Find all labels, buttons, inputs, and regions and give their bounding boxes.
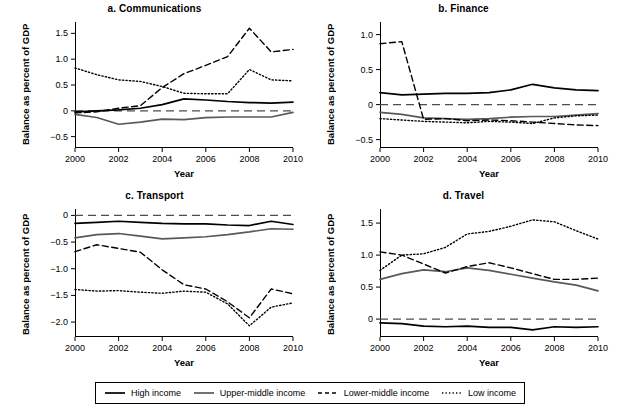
panel-communications: a. Communications Balance as percent of … — [0, 0, 309, 185]
plot-svg — [380, 22, 598, 148]
series-line — [75, 221, 293, 225]
legend-swatch-icon — [193, 389, 215, 397]
x-tick-label: 2010 — [588, 154, 608, 164]
x-tick-label: 2004 — [152, 343, 172, 353]
legend-item[interactable]: Lower-middle income — [317, 388, 430, 398]
series-line — [75, 28, 293, 113]
y-tick-label: −2.0 — [34, 317, 68, 327]
y-tick-label: −0.5 — [34, 132, 68, 142]
y-tick-label: 1.0 — [339, 250, 373, 260]
panel-title: b. Finance — [309, 3, 618, 14]
x-tick-label: 2002 — [414, 343, 434, 353]
series-line — [380, 42, 598, 126]
y-axis-label: Balance as percent of GDP — [20, 209, 31, 339]
y-tick-label: 1.5 — [339, 218, 373, 228]
x-tick-label: 2000 — [370, 154, 390, 164]
plot-svg — [380, 209, 598, 337]
y-axis-label: Balance as percent of GDP — [325, 22, 336, 147]
x-tick-label: 2010 — [283, 154, 303, 164]
panel-travel: d. Travel Balance as percent of GDP 1.51… — [309, 185, 618, 375]
y-tick-label: 1.5 — [34, 28, 68, 38]
x-tick-label: 2000 — [370, 343, 390, 353]
x-tick-label: 2004 — [457, 343, 477, 353]
y-tick-label: 1.0 — [34, 54, 68, 64]
panel-transport: c. Transport Balance as percent of GDP 0… — [0, 185, 309, 375]
x-tick-label: 2010 — [283, 343, 303, 353]
legend: High incomeUpper-middle incomeLower-midd… — [95, 382, 525, 404]
figure-root: a. Communications Balance as percent of … — [0, 0, 618, 415]
panel-title: c. Transport — [0, 190, 309, 201]
x-tick-label: 2008 — [544, 343, 564, 353]
y-tick-label: 0.5 — [34, 80, 68, 90]
x-axis-label: Year — [380, 168, 598, 179]
legend-item[interactable]: High income — [104, 388, 181, 398]
series-line — [75, 290, 293, 326]
legend-label: Low income — [468, 388, 516, 398]
plot-svg — [75, 22, 293, 148]
y-axis-label: Balance as percent of GDP — [325, 209, 336, 339]
y-tick-label: 0 — [339, 100, 373, 110]
y-tick-label: −1.5 — [34, 290, 68, 300]
series-line — [380, 252, 598, 280]
y-tick-label: 1.0 — [339, 30, 373, 40]
series-line — [380, 84, 598, 95]
legend-item[interactable]: Low income — [441, 388, 516, 398]
legend-label: Lower-middle income — [344, 388, 430, 398]
plot-area: 0−0.5−1.0−1.5−2.020002002200420062008201… — [75, 209, 293, 337]
series-line — [75, 229, 293, 239]
y-tick-label: 0.5 — [339, 65, 373, 75]
x-tick-label: 2000 — [65, 343, 85, 353]
legend-swatch-icon — [104, 389, 126, 397]
plot-svg — [75, 209, 293, 337]
x-tick-label: 2002 — [109, 154, 129, 164]
x-tick-label: 2006 — [501, 154, 521, 164]
x-tick-label: 2010 — [588, 343, 608, 353]
y-axis-label: Balance as percent of GDP — [20, 22, 31, 147]
y-tick-label: −0.5 — [339, 135, 373, 145]
series-line — [75, 245, 293, 318]
plot-area: 1.51.00.50200020022004200620082010 — [380, 209, 598, 337]
legend-label: High income — [131, 388, 181, 398]
x-tick-label: 2004 — [152, 154, 172, 164]
x-axis-label: Year — [380, 357, 598, 368]
x-tick-label: 2004 — [457, 154, 477, 164]
x-tick-label: 2002 — [109, 343, 129, 353]
panel-finance: b. Finance Balance as percent of GDP 1.0… — [309, 0, 618, 185]
series-line — [75, 112, 293, 124]
series-line — [75, 68, 293, 94]
x-tick-label: 2008 — [239, 343, 259, 353]
legend-label: Upper-middle income — [220, 388, 306, 398]
x-tick-label: 2008 — [239, 154, 259, 164]
x-axis-label: Year — [75, 357, 293, 368]
x-tick-label: 2006 — [196, 154, 216, 164]
x-tick-label: 2006 — [501, 343, 521, 353]
panel-title: d. Travel — [309, 190, 618, 201]
series-line — [380, 323, 598, 330]
x-tick-label: 2000 — [65, 154, 85, 164]
panel-title: a. Communications — [0, 3, 309, 14]
x-tick-label: 2002 — [414, 154, 434, 164]
y-tick-label: 0 — [34, 210, 68, 220]
y-tick-label: −0.5 — [34, 237, 68, 247]
y-tick-label: 0 — [339, 314, 373, 324]
y-tick-label: 0.5 — [339, 282, 373, 292]
y-tick-label: 0 — [34, 106, 68, 116]
y-tick-label: −1.0 — [34, 264, 68, 274]
x-axis-label: Year — [75, 168, 293, 179]
legend-swatch-icon — [317, 389, 339, 397]
x-tick-label: 2008 — [544, 154, 564, 164]
legend-swatch-icon — [441, 389, 463, 397]
legend-item[interactable]: Upper-middle income — [193, 388, 306, 398]
x-tick-label: 2006 — [196, 343, 216, 353]
plot-area: 1.51.00.50−0.5200020022004200620082010 — [75, 22, 293, 148]
plot-area: 1.00.50−0.5200020022004200620082010 — [380, 22, 598, 148]
series-line — [380, 112, 598, 119]
